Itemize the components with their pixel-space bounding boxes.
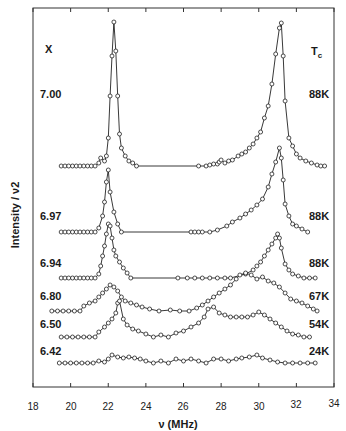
data-point-marker xyxy=(306,361,310,365)
data-point-marker xyxy=(277,236,281,240)
data-point-marker xyxy=(108,190,112,194)
data-point-marker xyxy=(287,136,291,140)
data-point-marker xyxy=(166,361,170,365)
spectrum-series-6-42 xyxy=(57,353,317,365)
data-point-marker xyxy=(266,185,270,189)
data-point-marker xyxy=(277,26,281,30)
data-point-marker xyxy=(240,315,244,319)
data-point-marker xyxy=(240,356,244,360)
data-point-marker xyxy=(103,360,107,364)
data-point-marker xyxy=(219,158,223,162)
data-point-marker xyxy=(230,158,234,162)
data-point-marker xyxy=(229,315,233,319)
data-point-marker xyxy=(138,357,142,361)
data-point-marker xyxy=(82,335,86,339)
data-point-marker xyxy=(279,21,283,25)
data-point-marker xyxy=(266,279,270,283)
data-point-marker xyxy=(108,283,112,287)
data-point-marker xyxy=(106,357,110,361)
data-point-marker xyxy=(129,276,133,280)
data-point-marker xyxy=(277,285,281,289)
data-point-marker xyxy=(206,307,210,311)
data-point-marker xyxy=(215,276,219,280)
data-point-marker xyxy=(283,361,287,365)
data-point-marker xyxy=(106,136,110,140)
data-point-marker xyxy=(238,216,242,220)
data-point-marker xyxy=(78,309,82,313)
data-point-marker xyxy=(174,357,178,361)
data-point-marker xyxy=(200,303,204,307)
data-point-marker xyxy=(121,317,125,321)
data-point-marker xyxy=(125,271,129,275)
data-point-marker xyxy=(298,156,302,160)
data-point-marker xyxy=(182,329,186,333)
data-point-marker xyxy=(200,276,204,280)
data-point-marker xyxy=(193,230,197,234)
data-point-marker xyxy=(106,321,110,325)
data-point-marker xyxy=(74,361,78,365)
data-point-marker xyxy=(204,361,208,365)
data-point-marker xyxy=(323,164,327,168)
data-point-marker xyxy=(121,356,125,360)
data-point-marker xyxy=(255,277,259,281)
data-point-marker xyxy=(251,268,255,272)
data-point-marker xyxy=(234,315,238,319)
data-point-marker xyxy=(71,335,75,339)
x-tick-label: 26 xyxy=(177,401,189,412)
data-point-marker xyxy=(108,94,112,98)
data-point-marker xyxy=(215,228,219,232)
data-point-marker xyxy=(251,142,255,146)
data-point-marker xyxy=(71,276,75,280)
row-x-label: 6.50 xyxy=(40,318,61,330)
data-point-marker xyxy=(276,232,280,236)
data-point-marker xyxy=(119,146,123,150)
data-point-marker xyxy=(112,248,116,252)
data-point-marker xyxy=(304,159,308,163)
row-x-label: 7.00 xyxy=(40,88,61,100)
data-point-marker xyxy=(309,161,313,165)
data-point-marker xyxy=(270,82,274,86)
data-point-marker xyxy=(97,272,101,276)
data-point-marker xyxy=(315,309,319,313)
data-point-marker xyxy=(144,332,148,336)
data-point-marker xyxy=(144,359,148,363)
data-point-marker xyxy=(123,299,127,303)
spectra-curves xyxy=(50,20,327,365)
data-point-marker xyxy=(101,214,105,218)
data-point-marker xyxy=(65,335,69,339)
x-tick-label: 32 xyxy=(290,399,302,410)
row-tc-label: 67K xyxy=(309,290,329,302)
data-point-marker xyxy=(238,273,242,277)
data-point-marker xyxy=(93,164,97,168)
data-point-marker xyxy=(71,230,75,234)
data-point-marker xyxy=(266,248,270,252)
data-point-marker xyxy=(103,325,107,329)
row-tc-label: 88K xyxy=(309,210,329,222)
data-point-marker xyxy=(247,146,251,150)
data-point-marker xyxy=(87,335,91,339)
data-point-marker xyxy=(174,331,178,335)
data-point-marker xyxy=(116,355,120,359)
data-point-marker xyxy=(266,104,270,108)
data-point-marker xyxy=(133,356,137,360)
data-point-marker xyxy=(135,303,139,307)
data-point-marker xyxy=(306,230,310,234)
data-point-marker xyxy=(300,301,304,305)
data-point-marker xyxy=(101,291,105,295)
data-point-marker xyxy=(87,301,91,305)
data-point-marker xyxy=(227,359,231,363)
row-tc-label: 54K xyxy=(309,318,329,330)
data-point-marker xyxy=(78,230,82,234)
data-point-marker xyxy=(93,276,97,280)
data-point-marker xyxy=(97,359,101,363)
data-point-marker xyxy=(61,309,65,313)
data-point-marker xyxy=(229,276,233,280)
data-point-marker xyxy=(99,264,103,268)
data-point-marker xyxy=(112,285,116,289)
data-point-marker xyxy=(197,359,201,363)
data-point-marker xyxy=(202,315,206,319)
data-point-marker xyxy=(159,333,163,337)
data-point-marker xyxy=(311,307,315,311)
data-point-marker xyxy=(67,164,71,168)
data-point-marker xyxy=(123,154,127,158)
